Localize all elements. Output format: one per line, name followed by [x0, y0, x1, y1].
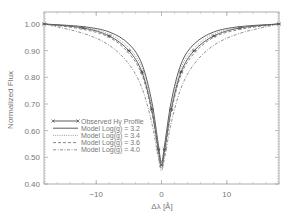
- legend-item: Model Log(g) = 4.0: [53, 146, 140, 154]
- series-line: [44, 24, 279, 171]
- plot-series: [42, 22, 281, 170]
- x-tick-label: −10: [89, 190, 103, 199]
- series-line: [44, 24, 279, 168]
- series-line: [44, 24, 279, 163]
- y-tick-label: 0.60: [24, 127, 40, 136]
- x-axis-label: Δλ [Å]: [151, 202, 172, 211]
- y-tick-label: 0.50: [24, 153, 40, 162]
- x-tick-label: 10: [222, 190, 231, 199]
- y-tick-label: 0.90: [24, 47, 40, 56]
- legend: Observed Hγ ProfileModel Log(g) = 3.2Mod…: [51, 118, 143, 155]
- x-tick-label: 0: [159, 190, 164, 199]
- series-line: [44, 24, 279, 165]
- y-tick-label: 0.80: [24, 73, 40, 82]
- x-axis: −10010: [44, 12, 279, 199]
- plot-border: [44, 12, 279, 184]
- y-tick-label: 0.70: [24, 100, 40, 109]
- plot-frame: [44, 12, 279, 184]
- legend-label: Model Log(g) = 4.0: [81, 146, 140, 154]
- y-tick-label: 0.40: [24, 180, 40, 189]
- spectral-line-chart: 0.400.500.600.700.800.901.00 −10010 Obse…: [0, 0, 289, 218]
- series-line: [44, 24, 279, 165]
- y-tick-label: 1.00: [24, 20, 40, 29]
- asterisk-marker: [212, 34, 216, 37]
- y-axis-label: Normalized Flux: [6, 71, 15, 129]
